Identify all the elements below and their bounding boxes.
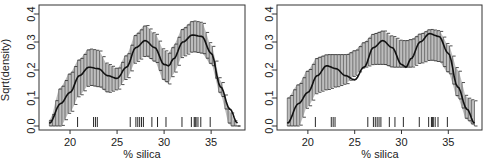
confidence-band: [49, 21, 240, 126]
x-tick-label: 20: [64, 136, 76, 148]
x-tick-label: 35: [205, 136, 217, 148]
right-density-panel: 202530350.00.10.20.30.4: [263, 5, 482, 148]
y-axis: 0.00.10.20.30.4: [263, 6, 277, 133]
y-tick-label: 0.4: [25, 6, 37, 21]
x-tick-label: 25: [111, 136, 123, 148]
y-axis: 0.00.10.20.30.4: [25, 6, 39, 133]
left-density-panel: 202530350.00.10.20.30.4: [25, 5, 245, 148]
y-tick-label: 0.1: [263, 90, 275, 105]
x-axis-label-left: % silica: [123, 148, 161, 160]
x-tick-label: 20: [302, 136, 314, 148]
y-tick-label: 0.4: [263, 6, 275, 21]
y-tick-label: 0.3: [25, 34, 37, 49]
x-axis-label-right: % silica: [361, 148, 399, 160]
x-tick-label: 30: [395, 136, 407, 148]
figure: 202530350.00.10.20.30.4 202530350.00.10.…: [0, 0, 494, 166]
y-tick-label: 0.0: [25, 118, 37, 133]
y-tick-label: 0.2: [263, 62, 275, 77]
y-tick-label: 0.1: [25, 90, 37, 105]
x-tick-label: 30: [158, 136, 170, 148]
x-axis: 20253035: [64, 130, 217, 148]
y-tick-label: 0.0: [263, 118, 275, 133]
y-tick-label: 0.3: [263, 34, 275, 49]
rug-marks: [315, 117, 447, 127]
x-tick-label: 25: [349, 136, 361, 148]
x-axis: 20253035: [302, 130, 455, 148]
y-tick-label: 0.2: [25, 62, 37, 77]
x-tick-label: 35: [442, 136, 454, 148]
rug-marks: [78, 117, 211, 127]
y-axis-label-left: Sqrt(density): [0, 39, 11, 101]
